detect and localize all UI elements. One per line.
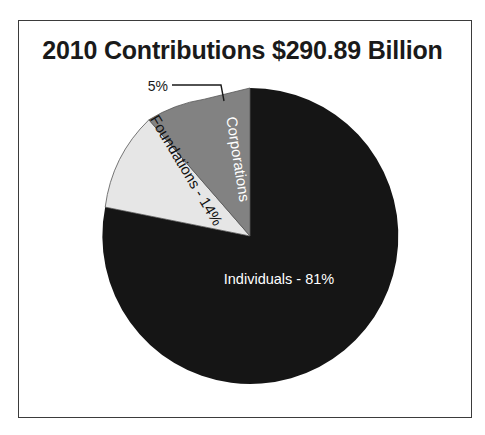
pie-label-individuals: Individuals - 81% (224, 271, 335, 287)
callout-label-corporations-percent: 5% (148, 78, 168, 94)
pie-chart-figure: 2010 Contributions $290.89 Billion 5% Co… (0, 0, 485, 435)
pie-chart-canvas: 5% Corporations Foundations - 14% Indivi… (0, 0, 485, 435)
